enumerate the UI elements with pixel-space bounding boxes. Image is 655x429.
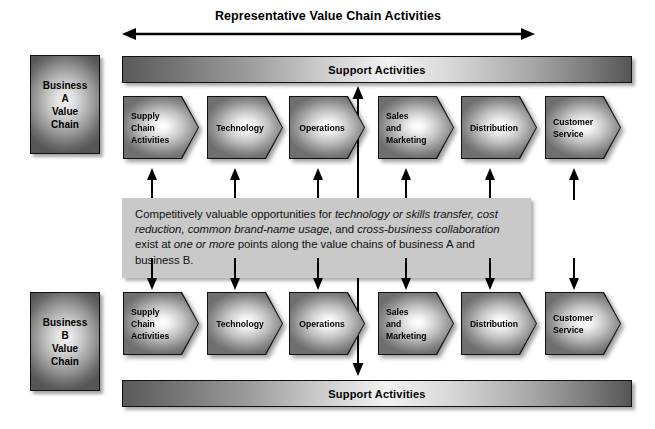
activity-label: Customer Service	[545, 116, 611, 140]
plain-phrase: exist at	[135, 238, 174, 250]
connector-arrow-down-icon	[484, 258, 496, 290]
activity-label: Sales and Marketing	[378, 110, 445, 146]
activity-chevron-a-customer-service: Customer Service	[545, 96, 621, 159]
activity-label: Operations	[289, 122, 365, 134]
activity-label: Technology	[207, 122, 283, 134]
activity-label: Sales and Marketing	[378, 306, 445, 342]
activity-chevron-a-technology: Technology	[207, 96, 283, 159]
emphasis-phrase: one or more	[174, 238, 235, 250]
activity-chevron-a-distribution: Distribution	[461, 96, 537, 159]
activity-chevron-a-operations: Operations	[289, 96, 365, 159]
connector-arrow-up-icon	[229, 168, 241, 200]
support-activities-label-bottom: Support Activities	[328, 388, 425, 400]
opportunities-text-panel: Competitively valuable opportunities for…	[122, 198, 531, 278]
activity-chevron-b-customer-service: Customer Service	[545, 292, 621, 355]
page-title: Representative Value Chain Activities	[128, 9, 528, 23]
activity-chevron-b-distribution: Distribution	[461, 292, 537, 355]
opportunities-text: Competitively valuable opportunities for…	[135, 207, 518, 268]
activity-chevron-a-supply-chain-activities: Supply Chain Activities	[123, 96, 199, 159]
connector-arrow-up-icon	[400, 168, 412, 200]
support-activities-bar-top: Support Activities	[122, 56, 632, 83]
representative-range-double-arrow-icon	[122, 27, 535, 41]
plain-phrase: , and	[329, 223, 357, 235]
activity-chevron-b-operations: Operations	[289, 292, 365, 355]
plain-phrase: Competitively valuable opportunities for	[135, 208, 335, 220]
activity-label: Distribution	[461, 318, 537, 330]
activity-label: Distribution	[461, 122, 537, 134]
support-activities-bar-bottom: Support Activities	[122, 380, 632, 407]
value-chain-diagram: Representative Value Chain Activities Bu…	[0, 0, 655, 429]
connector-arrow-up-icon	[146, 168, 158, 200]
emphasis-phrase: cross-business collaboration	[357, 223, 499, 235]
activity-chevron-b-technology: Technology	[207, 292, 283, 355]
activity-label: Operations	[289, 318, 365, 330]
activity-chevron-b-sales-and-marketing: Sales and Marketing	[378, 292, 454, 355]
connector-arrow-down-icon	[146, 258, 158, 290]
activity-chevron-a-sales-and-marketing: Sales and Marketing	[378, 96, 454, 159]
activity-label: Supply Chain Activities	[123, 110, 187, 146]
connector-arrow-down-icon	[229, 258, 241, 290]
connector-arrow-up-icon	[312, 168, 324, 200]
activity-chevron-b-supply-chain-activities: Supply Chain Activities	[123, 292, 199, 355]
connector-arrow-up-icon	[568, 168, 580, 200]
activity-label: Customer Service	[545, 312, 611, 336]
connector-arrow-down-icon	[568, 258, 580, 290]
business-a-label: Business A Value Chain	[43, 79, 87, 131]
connector-arrow-down-icon	[312, 258, 324, 290]
activity-label: Technology	[207, 318, 283, 330]
connector-arrow-up-icon	[484, 168, 496, 200]
activity-label: Supply Chain Activities	[123, 306, 187, 342]
business-b-value-chain-box: Business B Value Chain	[30, 292, 100, 391]
connector-arrow-down-icon	[400, 258, 412, 290]
support-activities-label-top: Support Activities	[328, 64, 425, 76]
business-b-label: Business B Value Chain	[43, 316, 87, 368]
business-a-value-chain-box: Business A Value Chain	[30, 55, 100, 154]
